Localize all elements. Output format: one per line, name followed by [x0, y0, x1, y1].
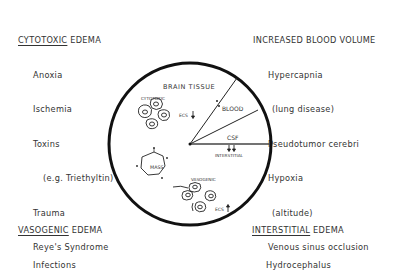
mass-icon: [136, 147, 168, 179]
csf-label: CSF: [227, 134, 239, 141]
mass-label: MASS: [150, 165, 164, 170]
brain-tissue-label: BRAIN TISSUE: [163, 83, 215, 91]
blood-label: BLOOD: [222, 105, 244, 112]
vasogenic-cells-icon: [173, 183, 216, 212]
ecs-increase-label: ECS: [215, 207, 224, 212]
interstitial-label: INTERSTITIAL: [215, 153, 244, 158]
blood-wedge-lower-line: [190, 110, 258, 144]
ecs-decrease-label: ECS: [179, 113, 188, 118]
csf-flow-arrows-icon: [228, 145, 236, 152]
cytotoxic-cells-icon: [138, 98, 169, 129]
ecs-increase-arrow-icon: [227, 205, 230, 213]
vasogenic-label: VASOGENIC: [191, 177, 216, 182]
center-point: [189, 143, 192, 146]
ecs-decrease-arrow-icon: [192, 111, 195, 119]
brain-compartment-diagram: BRAIN TISSUE CYTOTOXIC ECS BLOOD CSF INT…: [0, 0, 397, 272]
